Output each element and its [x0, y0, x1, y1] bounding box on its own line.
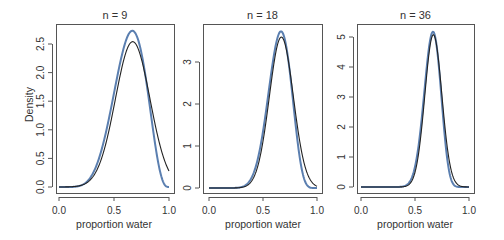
y-tick-label: 1.5: [35, 94, 46, 108]
y-tick-label: 0.5: [35, 151, 46, 165]
x-tick-label: 0.0: [202, 205, 216, 216]
x-tick-label: 0.5: [107, 205, 121, 216]
x-tick-label: 1.0: [310, 205, 324, 216]
x-tick-label: 0.0: [354, 205, 368, 216]
exact-posterior-curve: [361, 32, 469, 187]
plot-frame: [57, 25, 175, 194]
y-tick-label: 4: [336, 64, 347, 70]
panel-1: n = 90.00.51.0proportion water0.00.51.01…: [23, 9, 176, 230]
x-tick-label: 0.5: [256, 205, 270, 216]
y-tick-label: 2: [336, 124, 347, 130]
y-tick-label: 2: [182, 101, 193, 107]
y-tick-label: 1.0: [35, 122, 46, 136]
y-tick-label: 0.0: [35, 180, 46, 194]
x-axis-title: proportion water: [225, 218, 301, 230]
y-tick-label: 1: [182, 143, 193, 149]
exact-posterior-curve: [209, 31, 317, 188]
y-tick-label: 0: [182, 185, 193, 191]
y-tick-label: 5: [336, 34, 347, 40]
y-tick-label: 2.0: [35, 65, 46, 79]
panel-title: n = 36: [400, 9, 431, 21]
quadratic-approx-curve: [59, 42, 169, 187]
panel-3: n = 360.00.51.0proportion water012345: [336, 9, 476, 230]
x-tick-label: 0.0: [52, 205, 66, 216]
panel-title: n = 18: [247, 9, 278, 21]
y-tick-label: 1: [336, 154, 347, 160]
x-tick-label: 1.0: [462, 205, 476, 216]
x-tick-label: 0.5: [408, 205, 422, 216]
panel-2: n = 180.00.51.0proportion water0123: [182, 9, 324, 230]
figure: n = 90.00.51.0proportion water0.00.51.01…: [0, 0, 504, 240]
y-tick-label: 3: [182, 59, 193, 65]
x-axis-title: proportion water: [377, 218, 453, 230]
y-tick-label: 2.5: [35, 37, 46, 51]
x-axis-title: proportion water: [76, 218, 152, 230]
x-tick-label: 1.0: [162, 205, 176, 216]
y-tick-label: 3: [336, 94, 347, 100]
y-tick-label: 0: [336, 184, 347, 190]
plot-frame: [204, 25, 323, 194]
panel-title: n = 9: [103, 9, 128, 21]
y-axis-title: Density: [23, 86, 35, 122]
